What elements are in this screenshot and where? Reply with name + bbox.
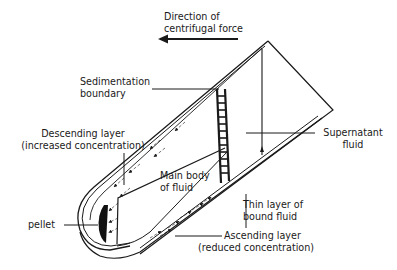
- thin-layer-label-line1: Thin layer of: [243, 199, 303, 211]
- ascending-label-line2: (reduced concentration): [198, 242, 314, 254]
- supernatant-label-line1: Supernatant: [318, 127, 388, 139]
- thin-layer-label: Thin layer of bound fluid: [243, 199, 303, 223]
- descending-label-line1: Descending layer: [16, 128, 150, 140]
- ascending-label-line1: Ascending layer: [198, 230, 314, 242]
- centrifugal-force-arrow-icon: [158, 35, 238, 44]
- supernatant-fluid-label: Supernatant fluid: [318, 127, 388, 151]
- pellet-label-text: pellet: [28, 219, 55, 231]
- thin-layer-label-line2: bound fluid: [243, 211, 303, 223]
- sedimentation-label-line1: Sedimentation: [80, 76, 150, 88]
- force-label-line1: Direction of: [164, 11, 243, 23]
- supernatant-label-line2: fluid: [318, 139, 388, 151]
- pellet-label: pellet: [28, 219, 55, 231]
- descending-label-line2: (increased concentration): [16, 140, 150, 152]
- ascending-layer-label: Ascending layer (reduced concentration): [198, 230, 314, 254]
- sedimentation-boundary-label: Sedimentation boundary: [80, 76, 150, 100]
- main-body-label: Main body of fluid: [160, 170, 210, 194]
- force-label-line2: centrifugal force: [164, 23, 243, 35]
- force-direction-label: Direction of centrifugal force: [164, 11, 243, 35]
- sedimentation-label-line2: boundary: [80, 88, 150, 100]
- sedimentation-ladder: [217, 89, 229, 183]
- main-body-label-line2: of fluid: [160, 182, 210, 194]
- descending-layer-label: Descending layer (increased concentratio…: [16, 128, 150, 152]
- pellet-shape: [99, 205, 108, 243]
- meniscus-line: [260, 49, 264, 155]
- main-body-label-line1: Main body: [160, 170, 210, 182]
